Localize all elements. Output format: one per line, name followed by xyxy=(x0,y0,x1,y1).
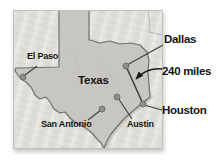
city-dot-houston xyxy=(140,101,146,107)
annotation-overlay xyxy=(0,0,219,160)
leader-line-el-paso xyxy=(25,66,37,75)
city-label-austin: Austin xyxy=(127,120,154,129)
figure-canvas: Texas 240 miles El PasoDallasAustinSan A… xyxy=(0,0,219,160)
leader-line-houston xyxy=(144,105,162,110)
city-label-el-paso: El Paso xyxy=(27,52,58,61)
distance-label: 240 miles xyxy=(162,65,211,77)
city-label-houston: Houston xyxy=(162,104,207,116)
city-dot-austin xyxy=(114,94,120,100)
distance-line xyxy=(126,66,143,104)
city-label-san-antonio: San Antonio xyxy=(41,120,91,129)
city-label-dallas: Dallas xyxy=(164,33,196,45)
city-dot-san-antonio xyxy=(99,106,105,112)
texas-label: Texas xyxy=(78,74,109,86)
city-dot-el-paso xyxy=(20,74,26,80)
distance-arrow xyxy=(136,69,162,79)
leader-line-austin xyxy=(118,98,132,119)
leader-line-dallas xyxy=(127,45,163,65)
city-dot-dallas xyxy=(123,63,129,69)
